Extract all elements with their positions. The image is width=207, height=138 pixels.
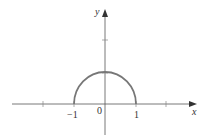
y-axis-arrow-icon [102,9,108,17]
tick-label-one: 1 [134,109,139,120]
tick-label-zero: 0 [97,105,102,116]
y-axis-label: y [94,6,100,17]
x-axis-label: x [191,106,197,117]
tick-label-neg-one: −1 [67,109,78,120]
graph-canvas: −1 0 1 x y [0,0,207,138]
